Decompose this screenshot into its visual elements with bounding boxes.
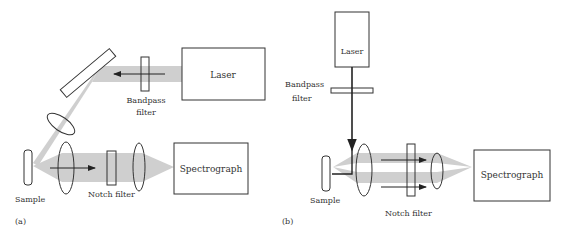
- spectrograph-label: Spectrograph: [481, 170, 544, 180]
- sample: [322, 156, 330, 191]
- sample-label: Sample: [15, 195, 46, 204]
- notch-filter: [407, 144, 415, 196]
- laser-box: [335, 12, 369, 67]
- collected-beam-lower: [333, 167, 472, 183]
- bandpass-label-line2: filter: [136, 108, 156, 117]
- sample: [24, 150, 32, 185]
- bandpass-label-line2: filter: [292, 94, 312, 103]
- bandpass-label-line1: Bandpass: [126, 96, 165, 105]
- bandpass-label-line1: Bandpass: [285, 80, 324, 89]
- panel-a: Laser Bandpass filter Sample Notch filte…: [15, 48, 265, 226]
- sample-label: Sample: [310, 196, 341, 205]
- notch-label: Notch filter: [88, 190, 135, 199]
- raman-setup-diagram: Laser Bandpass filter Sample Notch filte…: [0, 0, 562, 238]
- laser-label: Laser: [341, 47, 364, 56]
- spectrograph-label: Spectrograph: [180, 164, 243, 174]
- laser-label: Laser: [210, 70, 236, 80]
- collection-lens: [356, 144, 372, 196]
- laser-beam-diagonal: [33, 66, 100, 166]
- notch-label: Notch filter: [385, 209, 432, 218]
- panel-a-tag: (a): [15, 217, 26, 226]
- panel-b-tag: (b): [282, 217, 293, 226]
- panel-b: Laser Bandpass filter Sample Notch filte…: [282, 12, 550, 226]
